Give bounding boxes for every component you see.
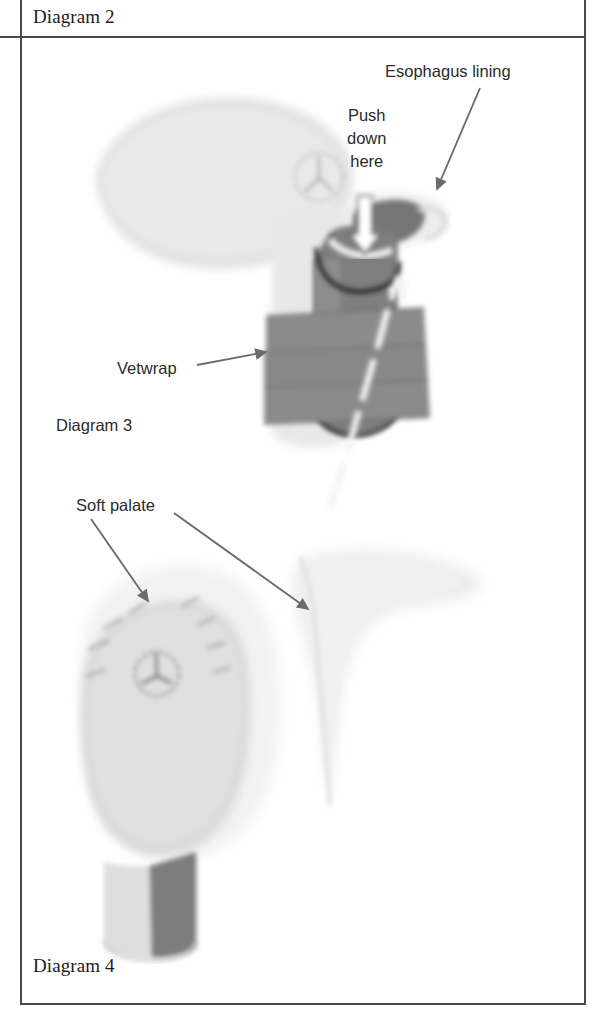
frame-border-right bbox=[584, 0, 586, 1005]
push-down-hollow-arrow bbox=[350, 196, 380, 254]
pharynx-tissue-lobe-group bbox=[95, 97, 353, 269]
callout-push-down-here: Push down here bbox=[347, 104, 386, 173]
trachea-stub bbox=[104, 852, 196, 960]
caption-diagram-4: Diagram 4 bbox=[33, 955, 115, 977]
soft-palate-leader-arrow-left bbox=[91, 519, 148, 601]
callout-soft-palate: Soft palate bbox=[76, 494, 155, 517]
esophagus-lining-lens bbox=[353, 200, 445, 245]
diagram-artwork bbox=[0, 0, 602, 1034]
frame-border-bottom bbox=[20, 1003, 586, 1005]
pharynx-cross-section-group bbox=[81, 565, 281, 960]
frame-divider-top bbox=[0, 36, 586, 38]
callout-vetwrap: Vetwrap bbox=[117, 357, 177, 380]
palpation-marker-circle-top bbox=[295, 153, 343, 201]
caption-diagram-2: Diagram 2 bbox=[33, 6, 115, 28]
soft-palate-leader-arrow-right bbox=[174, 513, 308, 609]
tissue-fold-ticks bbox=[88, 598, 229, 676]
caption-diagram-3: Diagram 3 bbox=[56, 416, 132, 435]
vetwrap-leader-arrow bbox=[197, 352, 266, 365]
trachea-tube-group bbox=[314, 226, 399, 436]
airflow-dashed-arrow bbox=[331, 278, 404, 505]
frame-border-left bbox=[20, 0, 22, 1005]
figure-root: Diagram 2 Diagram 3 Diagram 4 Esophagus … bbox=[0, 0, 602, 1034]
tissue-sheath bbox=[272, 193, 448, 448]
callout-esophagus-lining: Esophagus lining bbox=[385, 60, 511, 83]
soft-palate-tissue-group bbox=[294, 551, 482, 806]
esophagus-leader-arrow bbox=[437, 88, 480, 189]
leader-arrows bbox=[91, 88, 480, 609]
vetwrap-bands-group bbox=[264, 308, 430, 424]
palpation-marker-circle-bottom bbox=[135, 652, 179, 696]
